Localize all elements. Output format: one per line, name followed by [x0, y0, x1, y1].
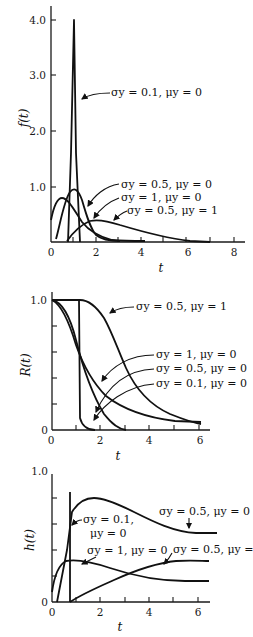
y-axis-label: h(t): [23, 529, 37, 551]
ytick-label: 0: [41, 596, 48, 608]
curve-sigma0.1-mu0: [52, 300, 95, 430]
xtick-label: 4: [146, 606, 153, 618]
xtick-label: 0: [48, 246, 55, 258]
y-axis-label: R(t): [19, 353, 33, 378]
ytick-label: 3.0: [29, 69, 46, 81]
curve-sigma0.5-mu0: [56, 189, 120, 241]
annotation: μy = 0: [90, 527, 127, 540]
ytick-label: 4.0: [29, 14, 46, 26]
curve-sigma0.5-mu0: [52, 300, 126, 430]
xtick-label: 8: [231, 246, 238, 258]
x-axis-label: t: [159, 261, 164, 275]
chart-pdf: 4.0 3.0 2.0 1.0 0 2 4 6 8 t f(t) σy = 0.…: [17, 6, 245, 275]
curve-sigma1-mu0: [52, 560, 209, 592]
ytick-label: 1.0: [30, 294, 47, 306]
x-axis-label: t: [116, 449, 121, 463]
y-axis-label: f(t): [17, 108, 31, 128]
annotation: σy = 0.5, μy = 1: [136, 300, 227, 313]
chart-reliability: 1.0 0 0 2 4 6 t R(t) σy = 0.5, μy = 1 σy…: [19, 292, 247, 463]
annotation: σy = 0.1, μy = 0: [111, 86, 202, 99]
annotation: σy = 0.5, μy = 0: [159, 505, 250, 518]
annotation: σy = 0.1,: [83, 513, 134, 526]
xtick-label: 0: [48, 434, 55, 446]
xtick-label: 2: [97, 434, 104, 446]
chart-hazard: 1.0 0 0 2 4 6 t h(t) σy = 0.1, μy = 0 σy…: [23, 465, 253, 634]
xtick-label: 6: [185, 246, 192, 258]
ytick-label: 1.0: [29, 181, 46, 193]
ytick-label: 2.0: [29, 125, 46, 137]
annotation: σy = 0.5, μy = 1: [173, 543, 253, 556]
xtick-label: 2: [93, 246, 100, 258]
x-axis-label: t: [118, 620, 123, 634]
ytick-label: 1.0: [31, 465, 48, 477]
annotation: σy = 1, μy = 0: [156, 348, 237, 361]
annotation: σy = 1, μy = 0: [121, 191, 202, 204]
xtick-label: 6: [195, 606, 202, 618]
xtick-label: 6: [197, 434, 204, 446]
annotation: σy = 0.5, μy = 0: [121, 178, 212, 191]
xtick-label: 4: [138, 246, 145, 258]
annotation: σy = 0.5, μy = 1: [127, 204, 218, 217]
annotation: σy = 1, μy = 0: [87, 544, 168, 557]
annotation: σy = 0.1, μy = 0: [156, 377, 247, 390]
xtick-label: 0: [49, 606, 56, 618]
xtick-label: 4: [146, 434, 153, 446]
curve-sigma0.5-mu1: [67, 220, 210, 242]
figure: 4.0 3.0 2.0 1.0 0 2 4 6 8 t f(t) σy = 0.…: [0, 0, 253, 637]
xtick-label: 2: [97, 606, 104, 618]
annotation: σy = 0.5, μy = 0: [156, 362, 247, 375]
